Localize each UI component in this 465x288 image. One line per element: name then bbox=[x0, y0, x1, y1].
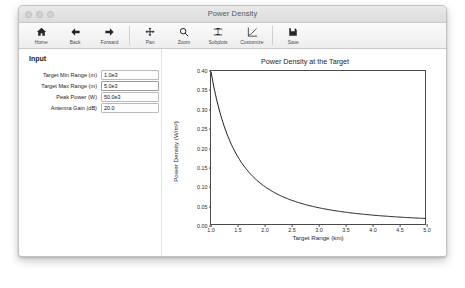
toolbar-label-forward: Forward bbox=[100, 39, 118, 44]
field-row-antenna-gain: Antenna Gain (dB) 20.0 bbox=[27, 103, 159, 113]
chart-xtick-mark bbox=[265, 224, 266, 227]
navigation-toolbar: Home Back Forward Pan bbox=[19, 23, 446, 49]
chart-ytick-mark bbox=[209, 109, 212, 110]
chart-ytick-mark bbox=[209, 90, 212, 91]
chart-ylabel: Power Density (W/m²) bbox=[172, 91, 179, 211]
chart-xtick-label: 1.5 bbox=[234, 227, 242, 233]
chart-ytick-label: 0.05 bbox=[197, 204, 208, 210]
label-peak-power: Peak Power (W) bbox=[27, 94, 101, 100]
chart-ytick-mark bbox=[209, 148, 212, 149]
window-titlebar[interactable]: Power Density bbox=[19, 6, 446, 23]
toolbar-button-pan[interactable]: Pan bbox=[133, 24, 167, 48]
chart-ytick-mark bbox=[209, 167, 212, 168]
toolbar-label-save: Save bbox=[287, 39, 298, 44]
chart-xtick-mark bbox=[427, 224, 428, 227]
toolbar-label-subplots: Subplots bbox=[209, 39, 228, 44]
chart-xtick-mark bbox=[211, 224, 212, 227]
toolbar-separator-1 bbox=[129, 26, 130, 45]
toolbar-button-subplots[interactable]: Subplots bbox=[201, 24, 235, 48]
chart-ytick-label: 0.00 bbox=[197, 223, 208, 229]
sliders-icon bbox=[213, 26, 223, 38]
toolbar-label-home: Home bbox=[34, 39, 47, 44]
chart-line-series bbox=[211, 71, 425, 225]
plot-canvas[interactable]: Power Density at the Target Target Range… bbox=[161, 49, 447, 257]
chart-xlabel: Target Range (km) bbox=[211, 234, 425, 241]
chart-xtick-label: 5.0 bbox=[423, 227, 431, 233]
chart-xtick-label: 2.0 bbox=[261, 227, 269, 233]
input-antenna-gain[interactable]: 20.0 bbox=[101, 103, 159, 113]
input-peak-power[interactable]: 50.0e3 bbox=[101, 92, 159, 102]
toolbar-button-back[interactable]: Back bbox=[58, 24, 92, 48]
field-row-target-max-range: Target Max Range (m) 5.0e3 bbox=[27, 81, 159, 91]
toolbar-button-save[interactable]: Save bbox=[276, 24, 310, 48]
chart-ytick-label: 0.15 bbox=[197, 165, 208, 171]
chart-ytick-label: 0.35 bbox=[197, 87, 208, 93]
chart-ytick-mark bbox=[209, 206, 212, 207]
chart-ytick-label: 0.30 bbox=[197, 107, 208, 113]
toolbar-button-zoom[interactable]: Zoom bbox=[167, 24, 201, 48]
chart-xtick-mark bbox=[292, 224, 293, 227]
chart-xtick-label: 2.5 bbox=[288, 227, 296, 233]
window-title: Power Density bbox=[19, 9, 446, 18]
toolbar-separator-2 bbox=[272, 26, 273, 45]
chart-ytick-mark bbox=[209, 187, 212, 188]
label-target-max-range: Target Max Range (m) bbox=[27, 83, 101, 89]
toolbar-label-pan: Pan bbox=[146, 39, 155, 44]
label-antenna-gain: Antenna Gain (dB) bbox=[27, 105, 101, 111]
chart-xtick-label: 4.5 bbox=[396, 227, 404, 233]
input-form: Target Min Range (m) 1.0e3 Target Max Ra… bbox=[27, 70, 159, 114]
screen: Power Density Home Back Forward bbox=[0, 0, 465, 288]
home-icon bbox=[36, 26, 47, 38]
input-target-max-range[interactable]: 5.0e3 bbox=[101, 81, 159, 91]
move-cross-icon bbox=[145, 26, 155, 38]
chart-xtick-label: 3.0 bbox=[315, 227, 323, 233]
floppy-disk-icon bbox=[288, 26, 298, 38]
axes-curve-icon bbox=[247, 26, 258, 38]
chart-title: Power Density at the Target bbox=[162, 57, 447, 66]
toolbar-button-home[interactable]: Home bbox=[24, 24, 58, 48]
toolbar-button-forward[interactable]: Forward bbox=[92, 24, 126, 48]
chart-xtick-mark bbox=[238, 224, 239, 227]
application-window: Power Density Home Back Forward bbox=[18, 5, 447, 257]
chart-xtick-mark bbox=[319, 224, 320, 227]
chart-xtick-mark bbox=[373, 224, 374, 227]
toolbar-label-zoom: Zoom bbox=[178, 39, 190, 44]
magnifier-icon bbox=[179, 26, 189, 38]
chart-ytick-label: 0.40 bbox=[197, 68, 208, 74]
chart-xtick-label: 1.0 bbox=[207, 227, 215, 233]
toolbar-button-customize[interactable]: Customize bbox=[235, 24, 269, 48]
chart-xtick-mark bbox=[400, 224, 401, 227]
arrow-right-icon bbox=[104, 26, 115, 38]
field-row-peak-power: Peak Power (W) 50.0e3 bbox=[27, 92, 159, 102]
chart-ytick-label: 0.25 bbox=[197, 126, 208, 132]
input-panel-heading: Input bbox=[29, 55, 46, 62]
chart-ytick-label: 0.20 bbox=[197, 146, 208, 152]
chart-ytick-mark bbox=[209, 71, 212, 72]
chart-xtick-label: 4.0 bbox=[369, 227, 377, 233]
chart-xtick-mark bbox=[346, 224, 347, 227]
chart-ytick-label: 0.10 bbox=[197, 184, 208, 190]
field-row-target-min-range: Target Min Range (m) 1.0e3 bbox=[27, 70, 159, 80]
window-content: Input Target Min Range (m) 1.0e3 Target … bbox=[19, 49, 446, 257]
toolbar-label-back: Back bbox=[70, 39, 81, 44]
arrow-left-icon bbox=[70, 26, 81, 38]
label-target-min-range: Target Min Range (m) bbox=[27, 72, 101, 78]
chart-ytick-mark bbox=[209, 129, 212, 130]
input-target-min-range[interactable]: 1.0e3 bbox=[101, 70, 159, 80]
chart-xtick-label: 3.5 bbox=[342, 227, 350, 233]
toolbar-label-customize: Customize bbox=[240, 39, 263, 44]
chart-axes: Target Range (km) Power Density (W/m²) 0… bbox=[210, 70, 426, 225]
